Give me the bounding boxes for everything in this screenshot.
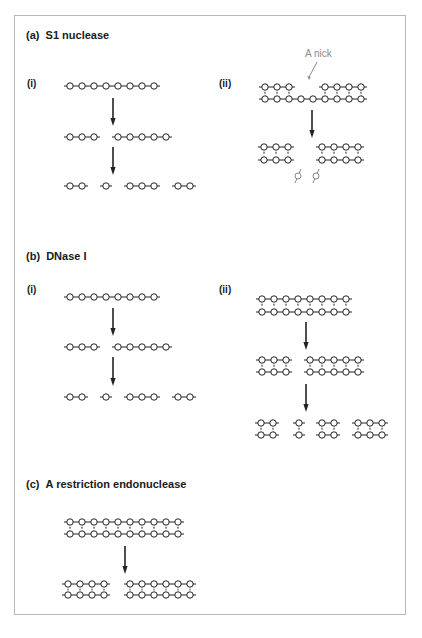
nucleotide-icon — [65, 592, 71, 598]
nucleotide-icon — [187, 581, 193, 587]
nucleotide-icon — [286, 96, 292, 102]
nucleotide-icon — [67, 183, 73, 189]
nucleotide-icon — [319, 420, 325, 426]
nucleotide-icon — [91, 531, 97, 537]
nucleotide-icon — [163, 344, 169, 350]
nucleotide-icon — [139, 531, 145, 537]
nucleotide-icon — [262, 84, 268, 90]
nucleotide-icon — [261, 157, 267, 163]
nucleotide-icon — [367, 420, 373, 426]
nucleotide-icon — [77, 581, 83, 587]
nucleotide-icon — [273, 157, 279, 163]
nucleotide-icon — [127, 344, 133, 350]
nick-pointer-arrowhead — [307, 76, 311, 80]
nucleotide-icon — [139, 519, 145, 525]
nucleotide-icon — [261, 144, 267, 150]
nucleotide-icon — [262, 96, 268, 102]
nucleotide-icon — [307, 357, 313, 363]
nucleotide-icon — [115, 531, 121, 537]
nucleotide-icon — [67, 134, 73, 140]
nucleotide-icon — [79, 519, 85, 525]
arrow-down-icon — [110, 167, 115, 175]
nucleotide-icon — [331, 296, 337, 302]
nucleotide-icon — [175, 519, 181, 525]
nucleotide-icon — [151, 83, 157, 89]
arrow-down-icon — [303, 342, 308, 350]
nucleotide-icon — [283, 369, 289, 375]
nucleotide-icon — [274, 84, 280, 90]
nucleotide-icon — [331, 144, 337, 150]
nucleotide-icon — [79, 134, 85, 140]
nucleotide-icon — [358, 84, 364, 90]
nucleotide-icon — [115, 519, 121, 525]
nucleotide-icon — [283, 296, 289, 302]
nucleotide-icon — [343, 296, 349, 302]
nucleotide-icon — [271, 369, 277, 375]
nucleotide-icon — [127, 519, 133, 525]
nucleotide-icon — [67, 83, 73, 89]
nucleotide-icon — [175, 183, 181, 189]
nucleotide-icon — [139, 294, 145, 300]
arrow-down-icon — [110, 328, 115, 336]
nucleotide-icon — [270, 432, 276, 438]
nucleotide-icon — [343, 369, 349, 375]
nucleotide-icon — [79, 294, 85, 300]
nucleotide-icon — [163, 134, 169, 140]
nucleotide-icon — [319, 432, 325, 438]
nucleotide-icon — [295, 296, 301, 302]
nucleotide-icon — [127, 581, 133, 587]
dna-diagram — [0, 0, 422, 638]
nucleotide-icon — [127, 531, 133, 537]
nucleotide-icon — [91, 134, 97, 140]
nucleotide-icon — [115, 344, 121, 350]
nucleotide-icon — [79, 183, 85, 189]
nucleotide-icon — [285, 144, 291, 150]
nucleotide-icon — [163, 519, 169, 525]
nucleotide-icon — [139, 183, 145, 189]
nucleotide-icon — [175, 394, 181, 400]
nucleotide-icon — [343, 309, 349, 315]
nucleotide-icon — [175, 592, 181, 598]
nucleotide-icon — [67, 344, 73, 350]
nucleotide-icon — [346, 96, 352, 102]
nucleotide-icon — [273, 144, 279, 150]
nucleotide-icon — [115, 83, 121, 89]
nucleotide-icon — [379, 432, 385, 438]
nucleotide-icon — [322, 84, 328, 90]
nucleotide-icon — [296, 432, 302, 438]
nucleotide-icon — [103, 394, 109, 400]
free-nucleotide-icon — [313, 173, 319, 179]
nucleotide-icon — [163, 581, 169, 587]
nucleotide-icon — [319, 157, 325, 163]
nucleotide-icon — [77, 592, 83, 598]
nucleotide-icon — [343, 144, 349, 150]
nucleotide-icon — [258, 432, 264, 438]
nucleotide-icon — [259, 309, 265, 315]
nucleotide-icon — [127, 183, 133, 189]
nucleotide-icon — [355, 357, 361, 363]
nucleotide-icon — [259, 296, 265, 302]
nucleotide-icon — [91, 294, 97, 300]
nucleotide-icon — [115, 134, 121, 140]
nucleotide-icon — [79, 83, 85, 89]
nucleotide-icon — [346, 84, 352, 90]
arrow-down-icon — [110, 378, 115, 386]
nucleotide-icon — [307, 309, 313, 315]
nucleotide-icon — [103, 531, 109, 537]
nucleotide-icon — [67, 394, 73, 400]
nucleotide-icon — [367, 432, 373, 438]
nucleotide-icon — [274, 96, 280, 102]
nucleotide-icon — [295, 309, 301, 315]
nucleotide-icon — [163, 592, 169, 598]
nucleotide-icon — [151, 344, 157, 350]
nucleotide-icon — [79, 394, 85, 400]
nucleotide-icon — [187, 394, 193, 400]
nucleotide-icon — [151, 581, 157, 587]
nucleotide-icon — [334, 96, 340, 102]
nucleotide-icon — [115, 294, 121, 300]
nucleotide-icon — [334, 84, 340, 90]
nucleotide-icon — [331, 369, 337, 375]
nucleotide-icon — [319, 296, 325, 302]
nucleotide-icon — [103, 183, 109, 189]
nucleotide-icon — [103, 83, 109, 89]
